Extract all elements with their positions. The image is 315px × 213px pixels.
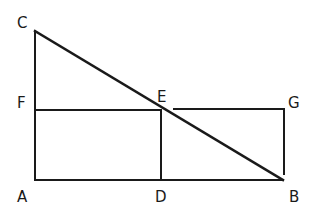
- label-b: B: [289, 188, 299, 206]
- label-g: G: [288, 94, 300, 112]
- label-c: C: [17, 14, 27, 32]
- label-e: E: [157, 88, 166, 106]
- geometry-diagram: C F E G A D B: [0, 0, 315, 213]
- label-f: F: [17, 94, 26, 112]
- label-d: D: [155, 188, 167, 206]
- label-a: A: [17, 188, 28, 206]
